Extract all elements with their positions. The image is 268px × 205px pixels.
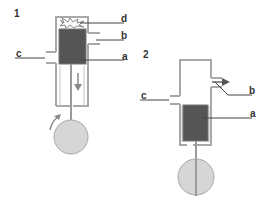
panel-1-piston bbox=[59, 29, 86, 64]
panel-1-down-arrow-icon bbox=[74, 84, 82, 91]
panel-1-number: 1 bbox=[14, 9, 20, 19]
panel-1-engine bbox=[15, 17, 124, 154]
panel-2-label-c: c bbox=[141, 91, 147, 101]
panel-1-flywheel bbox=[54, 120, 88, 154]
panel-1-label-d: d bbox=[121, 14, 127, 24]
panel-2-cylinder bbox=[180, 60, 211, 108]
panel-1-port-c bbox=[46, 52, 56, 63]
panel-2-exhaust-arrow-icon bbox=[222, 78, 230, 86]
panel-2-port-c bbox=[170, 96, 180, 104]
panel-1-port-b bbox=[88, 33, 100, 44]
panel-2-engine bbox=[140, 60, 252, 196]
panel-2-label-b: b bbox=[249, 86, 255, 96]
panel-2-piston bbox=[183, 105, 208, 141]
panel-1-label-b: b bbox=[121, 31, 127, 41]
panel-2-label-a: a bbox=[250, 109, 256, 119]
panel-1-label-c: c bbox=[16, 49, 22, 59]
panel-2-number: 2 bbox=[143, 50, 149, 60]
engine-cycle-diagram bbox=[0, 0, 268, 205]
panel-2-leader-b bbox=[215, 82, 252, 95]
panel-1-label-a: a bbox=[122, 52, 128, 62]
